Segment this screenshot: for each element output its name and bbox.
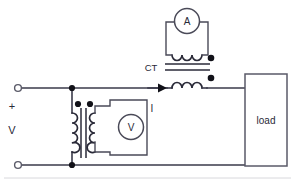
positive-terminal[interactable] — [15, 85, 22, 92]
ammeter-loop-wire-right — [198, 22, 208, 55]
circuit-schematic-canvas: V I CT A load + V — [0, 0, 295, 185]
ammeter-label: A — [184, 16, 191, 27]
pt-polarity-dot-secondary — [87, 101, 93, 107]
junction-dot-pt-top — [69, 85, 75, 91]
load-label: load — [257, 115, 276, 126]
pt-primary-coil — [72, 113, 80, 153]
pt-polarity-dot-primary — [75, 101, 81, 107]
current-arrow-head — [158, 84, 167, 93]
ct-primary-coil — [172, 83, 202, 89]
positive-polarity-label: + — [9, 100, 15, 112]
ct-secondary-coil — [172, 55, 202, 61]
junction-dot-pt-bottom — [69, 162, 75, 168]
ammeter-loop-wire-left — [166, 22, 176, 55]
circuit-diagram: V I CT A load + V — [0, 0, 295, 185]
negative-terminal[interactable] — [15, 162, 22, 169]
ct-label: CT — [145, 62, 158, 73]
supply-voltage-label: V — [8, 124, 16, 136]
pt-secondary-coil — [87, 113, 95, 153]
current-label: I — [151, 103, 154, 114]
ct-polarity-dot-primary — [208, 75, 215, 82]
voltmeter-label: V — [128, 122, 135, 133]
